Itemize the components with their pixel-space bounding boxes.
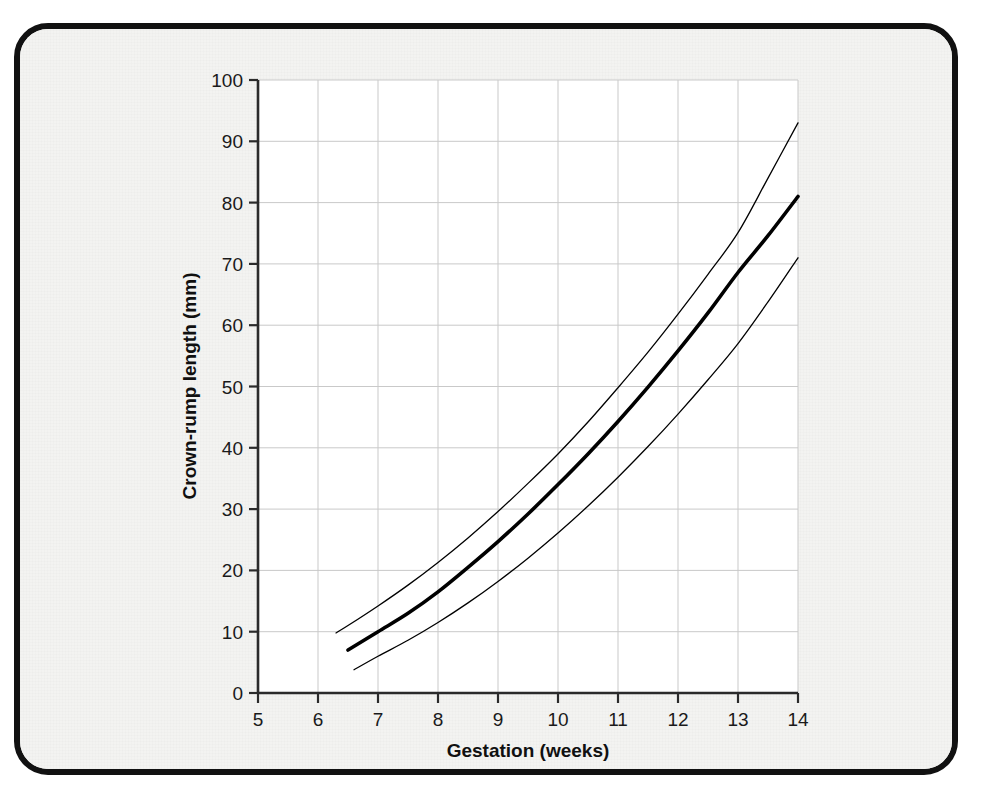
figure-root: 0102030405060708090100567891011121314 Ge… [0,0,985,801]
y-axis-tick-label: 60 [222,315,243,336]
y-axis-tick-label: 50 [222,377,243,398]
x-axis-tick-label: 9 [493,709,504,730]
y-axis-tick-label: 40 [222,438,243,459]
x-axis-tick-label: 11 [608,709,628,730]
x-axis-tick-label: 14 [787,709,809,730]
x-axis-tick-label: 5 [253,709,264,730]
x-axis-tick-label: 8 [433,709,444,730]
x-axis-title: Gestation (weeks) [447,740,610,761]
y-axis-tick-label: 20 [222,560,243,581]
y-axis-tick-label: 100 [211,70,243,91]
x-axis-tick-label: 6 [313,709,324,730]
x-axis-tick-label: 13 [727,709,748,730]
x-axis-tick-label: 7 [373,709,384,730]
y-axis-tick-label: 90 [222,131,243,152]
y-axis-tick-label: 70 [222,254,243,275]
x-axis-tick-label: 10 [547,709,568,730]
y-axis-tick-label: 10 [222,622,243,643]
y-axis-title: Crown-rump length (mm) [179,273,200,500]
y-axis-tick-label: 30 [222,499,243,520]
growth-chart: 0102030405060708090100567891011121314 Ge… [0,0,985,801]
x-axis-tick-label: 12 [667,709,688,730]
y-axis-tick-label: 80 [222,193,243,214]
y-axis-tick-label: 0 [232,683,243,704]
